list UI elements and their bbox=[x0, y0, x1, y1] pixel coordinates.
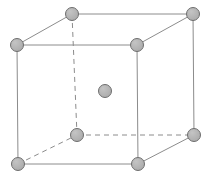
atom-bottom-back-right: bottom-back-right corner atom bbox=[188, 129, 201, 142]
cell-edge-vertical-front-right bbox=[137, 45, 138, 164]
cell-edge-bottom-left bbox=[18, 135, 77, 164]
atom-top-front-left: top-front-left corner atom bbox=[11, 39, 24, 52]
cell-edge-bottom-right bbox=[138, 135, 194, 164]
cell-edge-top-left bbox=[17, 14, 72, 45]
cell-edge-vertical-front-left bbox=[17, 45, 18, 164]
cell-edge-top-right bbox=[137, 14, 193, 45]
atom-top-front-right: top-front-right corner atom bbox=[131, 39, 144, 52]
atom-bottom-back-left: bottom-back-left corner atom bbox=[71, 129, 84, 142]
atom-body-center: body-center atom bbox=[99, 85, 112, 98]
atom-top-back-right: top-back-right corner atom bbox=[187, 8, 200, 21]
bcc-unit-cell-figure: top-back-left corner atomtop-back-right … bbox=[0, 0, 209, 183]
cell-edge-vertical-back-right bbox=[193, 14, 194, 135]
unit-cell-canvas: top-back-left corner atomtop-back-right … bbox=[0, 0, 209, 183]
atom-bottom-front-right: bottom-front-right corner atom bbox=[132, 158, 145, 171]
atom-bottom-front-left: bottom-front-left corner atom bbox=[12, 158, 25, 171]
atom-top-back-left: top-back-left corner atom bbox=[66, 8, 79, 21]
cell-edge-vertical-back-left bbox=[72, 14, 77, 135]
